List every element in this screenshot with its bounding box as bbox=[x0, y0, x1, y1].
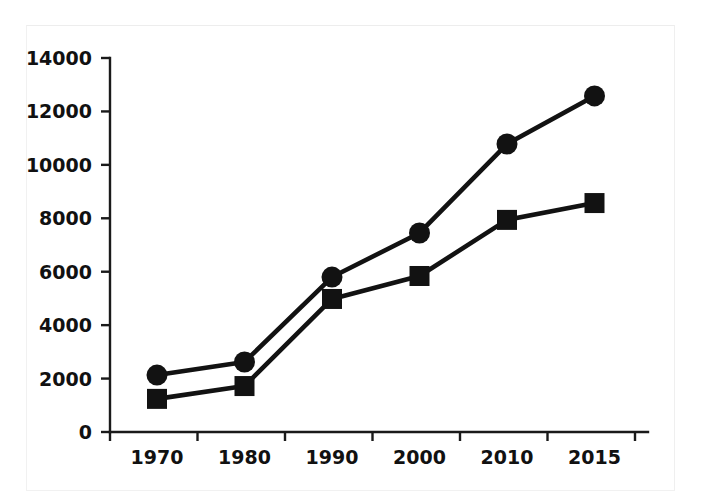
x-axis-tick-label: 1980 bbox=[218, 446, 271, 468]
y-axis-tick-label: 0 bbox=[79, 421, 92, 443]
chart-container: 02000400060008000100001200014000 1970198… bbox=[0, 0, 707, 500]
x-axis-tick-marks bbox=[110, 432, 635, 441]
y-axis-tick-label: 14000 bbox=[26, 47, 92, 69]
x-axis-tick-label: 2010 bbox=[481, 446, 534, 468]
y-axis-tick-label: 6000 bbox=[39, 261, 92, 283]
data-point-circle bbox=[497, 134, 518, 155]
x-axis-tick-label: 1990 bbox=[306, 446, 359, 468]
y-axis-tick-label: 12000 bbox=[26, 100, 92, 122]
line-chart-plot: 02000400060008000100001200014000 1970198… bbox=[0, 0, 707, 500]
series-line-circle bbox=[157, 96, 595, 375]
data-point-circle bbox=[409, 222, 430, 243]
x-axis-tick-label: 2000 bbox=[393, 446, 446, 468]
series-line-square bbox=[157, 203, 595, 399]
x-axis-tick-label: 2015 bbox=[568, 446, 621, 468]
data-point-circle bbox=[584, 85, 605, 106]
data-point-square bbox=[585, 193, 605, 213]
series-lines bbox=[157, 96, 595, 399]
y-axis-tick-label: 4000 bbox=[39, 314, 92, 336]
data-point-circle bbox=[322, 267, 343, 288]
data-point-square bbox=[497, 210, 517, 230]
series-markers bbox=[147, 85, 606, 408]
y-axis-tick-labels: 02000400060008000100001200014000 bbox=[26, 47, 92, 443]
data-point-square bbox=[322, 289, 342, 309]
data-point-square bbox=[235, 376, 255, 396]
y-axis-tick-marks bbox=[101, 58, 110, 432]
x-axis-tick-labels: 197019801990200020102015 bbox=[131, 446, 621, 468]
data-point-square bbox=[147, 389, 167, 409]
y-axis-tick-label: 10000 bbox=[26, 154, 92, 176]
y-axis-tick-label: 8000 bbox=[39, 207, 92, 229]
data-point-square bbox=[410, 266, 430, 286]
data-point-circle bbox=[234, 352, 255, 373]
y-axis-tick-label: 2000 bbox=[39, 368, 92, 390]
x-axis-tick-label: 1970 bbox=[131, 446, 184, 468]
data-point-circle bbox=[147, 365, 168, 386]
